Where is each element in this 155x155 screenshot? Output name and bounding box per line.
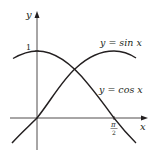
- cos-label: y = cos x: [98, 84, 143, 95]
- sin-label: y = sin x: [99, 37, 142, 48]
- y-axis-label: y: [25, 9, 32, 20]
- pi-label: π: [110, 121, 116, 129]
- cos-curve: [13, 51, 136, 143]
- two-label: 2: [112, 129, 116, 136]
- sin-cos-graph: y x 1 π 2 y = sin x y = cos x: [0, 0, 155, 155]
- x-axis-label: x: [140, 121, 146, 132]
- y-tick-one: 1: [26, 43, 31, 52]
- x-axis-arrow-icon: [141, 116, 148, 121]
- sin-curve: [12, 51, 136, 143]
- y-axis-arrow-icon: [35, 11, 40, 18]
